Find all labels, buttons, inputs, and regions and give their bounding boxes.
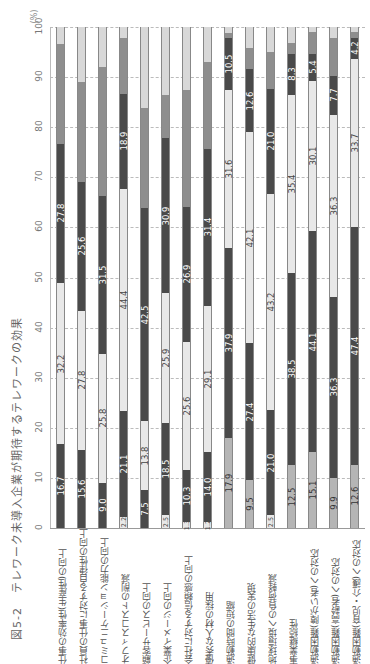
bar-segment: 1.3: [182, 522, 191, 529]
bar-segment: 15.1: [308, 452, 317, 528]
segment-value-label: 9.0: [98, 499, 108, 513]
bar-segment: 33.7: [350, 59, 359, 228]
category-label: 事業継続性: [286, 534, 298, 664]
bar-segment: 44.1: [308, 231, 317, 452]
bar-segment: 26.9: [182, 207, 191, 342]
bar-segment: [77, 27, 86, 82]
bar-segment: [182, 90, 191, 207]
bar-segment: 12.6: [350, 465, 359, 528]
bar-segment: 7.7: [329, 76, 338, 115]
bar-segment: 31.4: [203, 149, 212, 306]
bar-segment: 27.8: [77, 311, 86, 450]
segment-value-label: 2.5: [162, 517, 170, 527]
bar-segment: 43.2: [266, 194, 275, 410]
bar-segment: [329, 38, 338, 76]
segment-value-label: 27.4: [245, 402, 255, 421]
segment-value-label: 30.9: [161, 206, 171, 225]
bar-segment: [119, 27, 128, 38]
bar-segment: [140, 108, 149, 208]
bar-segment: 42.5: [140, 208, 149, 421]
bar-segment: 15.6: [77, 450, 86, 528]
stacked-bar: 9.025.831.5: [98, 27, 107, 528]
segment-value-label: 4.2: [350, 41, 360, 55]
bar-segment: [266, 52, 275, 89]
stacked-bar: 7.513.842.5: [140, 27, 149, 528]
segment-value-label: 42.1: [245, 228, 255, 247]
y-tick-label: 40: [34, 318, 44, 336]
segment-value-label: 7.5: [140, 502, 150, 516]
segment-value-label: 25.8: [98, 409, 108, 428]
category-label: 優秀な人材の採用: [202, 534, 214, 664]
category-label: 通勤困難(高齢者)への対応: [328, 534, 340, 664]
segment-value-label: 12.6: [350, 487, 360, 506]
bar-segment: 29.1: [203, 306, 212, 452]
segment-value-label: 44.1: [308, 332, 318, 351]
category-label: 社員の仕事に対する自律性の向上: [76, 534, 88, 664]
category-label: 仕事の効率性(生産性)の向上: [55, 534, 67, 664]
segment-value-label: 44.4: [119, 291, 129, 310]
category-label: 通勤時間の短縮: [223, 534, 235, 664]
bar-segment: [224, 33, 233, 38]
bar-segment: 8.3: [287, 54, 296, 96]
bar-segment: [98, 67, 107, 196]
bar-segment: 2.5: [161, 515, 170, 528]
bar-segment: [161, 27, 170, 95]
segment-value-label: 15.6: [77, 479, 87, 498]
stacked-bar: 2.221.144.418.9: [119, 27, 128, 528]
stacked-bar: 9.527.442.112.6: [245, 27, 254, 528]
bar-segment: 21.0: [266, 410, 275, 515]
segment-value-label: 31.6: [224, 160, 234, 179]
bar-segment: 37.9: [224, 248, 233, 438]
bar-segment: 25.8: [98, 354, 107, 483]
bar-segment: [224, 27, 233, 33]
bar-segment: 16.7: [56, 444, 65, 528]
category-label: 会社に対する信頼感の向上: [181, 534, 193, 664]
bar-segment: 32.2: [56, 283, 65, 444]
bar-segment: [287, 27, 296, 43]
bar-segment: 38.5: [287, 273, 296, 466]
bar-segment: 18.9: [119, 94, 128, 189]
bar-segment: 12.6: [245, 69, 254, 132]
segment-value-label: 26.9: [182, 265, 192, 284]
bar-segment: [266, 27, 275, 52]
y-tick-label: 100: [34, 17, 44, 35]
y-tick-label: 20: [34, 418, 44, 436]
segment-value-label: 42.5: [140, 305, 150, 324]
bar-segment: [56, 44, 65, 144]
bar-segment: [56, 27, 65, 44]
segment-value-label: 15.1: [308, 481, 318, 500]
bar-segment: 13.8: [140, 421, 149, 490]
category-label: 地球環境への負荷軽減: [265, 534, 277, 664]
bar-segment: 36.3: [329, 115, 338, 297]
category-label: コミュニケーション能力の向上: [97, 534, 109, 664]
bar-segment: [182, 27, 191, 90]
segment-value-label: 13.8: [140, 446, 150, 465]
bar-segment: [140, 27, 149, 108]
segment-value-label: 27.8: [56, 204, 66, 223]
segment-value-label: 12.6: [245, 91, 255, 110]
bar-segment: 2.2: [119, 517, 128, 528]
bar-segment: [119, 38, 128, 95]
bar-segment: 30.1: [308, 81, 317, 232]
segment-value-label: 7.7: [329, 89, 339, 103]
bar-segment: 47.4: [350, 227, 359, 464]
category-label: 通勤困難(育児・介護)への対応: [349, 534, 361, 664]
category-label: 通勤困難(障がい者)への対応: [307, 534, 319, 664]
bar-segment: 21.0: [266, 89, 275, 194]
stacked-bar: 2.518.525.930.9: [161, 27, 170, 528]
stacked-bar: 1.310.325.626.9: [182, 27, 191, 528]
segment-value-label: 25.6: [77, 237, 87, 256]
segment-value-label: 18.5: [161, 460, 171, 479]
stacked-bar: 1.214.029.131.4: [203, 27, 212, 528]
bar-segment: 1.2: [203, 522, 212, 528]
segment-value-label: 32.2: [56, 354, 66, 373]
category-label: 企業イメージの向上: [160, 534, 172, 664]
bar-segment: 35.4: [287, 95, 296, 272]
segment-value-label: 35.4: [287, 174, 297, 193]
segment-value-label: 31.4: [203, 218, 213, 237]
segment-value-label: 21.0: [266, 132, 276, 151]
bar-segment: 18.5: [161, 423, 170, 516]
segment-value-label: 27.8: [77, 371, 87, 390]
category-label: オフィスコストの削減: [118, 534, 130, 664]
bar-segment: [350, 27, 359, 32]
